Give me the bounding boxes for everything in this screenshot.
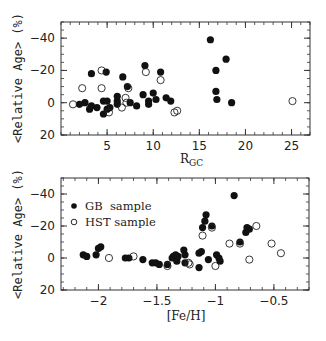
hst-point bbox=[105, 254, 112, 261]
gb-point bbox=[157, 68, 164, 75]
gb-point bbox=[152, 96, 159, 103]
gb-point bbox=[125, 254, 132, 261]
gb-point bbox=[139, 91, 146, 98]
hst-point bbox=[157, 77, 164, 84]
bottom-plot-frame bbox=[61, 178, 309, 290]
gb-point bbox=[199, 224, 206, 231]
legend-hst-marker bbox=[71, 219, 77, 225]
hst-point bbox=[142, 68, 149, 75]
gb-point bbox=[119, 73, 126, 80]
gb-point bbox=[156, 261, 163, 268]
gb-point bbox=[167, 98, 174, 105]
hst-point bbox=[118, 104, 125, 111]
bottom-x-axis-label: [Fe/H] bbox=[167, 309, 206, 323]
top-panel: 510152025−40−20020 <Relative Age> (%) RG… bbox=[11, 13, 310, 168]
x-tick-label: 10 bbox=[146, 139, 161, 153]
hst-point bbox=[79, 85, 86, 92]
bottom-y-axis-label: <Relative Age> (%) bbox=[11, 169, 25, 299]
hst-point bbox=[246, 256, 253, 263]
gb-point bbox=[201, 218, 208, 225]
gb-point bbox=[208, 222, 215, 229]
bottom-panel: −2−1.5−1−0.5−40−20020 GB sample HST samp… bbox=[11, 169, 309, 323]
gb-point bbox=[216, 258, 223, 265]
gb-point bbox=[145, 101, 152, 108]
gb-point bbox=[133, 102, 140, 109]
gb-point bbox=[231, 192, 238, 199]
hst-point bbox=[268, 240, 275, 247]
gb-point bbox=[93, 104, 100, 111]
legend-gb-label: GB sample bbox=[85, 199, 152, 213]
hst-point bbox=[277, 250, 284, 257]
x-tick-label: 25 bbox=[284, 139, 299, 153]
gb-point bbox=[88, 70, 95, 77]
gb-point bbox=[83, 253, 90, 260]
gb-point bbox=[202, 211, 209, 218]
gb-point bbox=[92, 251, 99, 258]
gb-point bbox=[181, 251, 188, 258]
gb-point bbox=[81, 99, 88, 106]
top-x-axis-label: RGC bbox=[180, 152, 203, 168]
hst-point bbox=[226, 240, 233, 247]
gb-point bbox=[228, 99, 235, 106]
x-tick-label: 15 bbox=[192, 139, 207, 153]
gb-point bbox=[246, 226, 253, 233]
x-tick-label: 20 bbox=[238, 139, 253, 153]
gb-point bbox=[139, 256, 146, 263]
hst-point bbox=[122, 94, 129, 101]
legend-gb-marker bbox=[71, 203, 77, 209]
x-tick-label: −0.5 bbox=[259, 294, 288, 308]
hst-point bbox=[289, 98, 296, 105]
x-tick-label: −2 bbox=[90, 294, 108, 308]
gb-point bbox=[150, 89, 157, 96]
x-tick-label: −1 bbox=[207, 294, 225, 308]
gb-point bbox=[207, 36, 214, 43]
y-tick-label: −20 bbox=[30, 219, 55, 233]
x-label-sub: GC bbox=[189, 158, 203, 168]
gb-point bbox=[174, 253, 181, 260]
x-tick-label: −1.5 bbox=[142, 294, 171, 308]
legend-hst-label: HST sample bbox=[85, 215, 156, 229]
gb-point bbox=[205, 256, 212, 263]
x-tick-label: 5 bbox=[103, 139, 111, 153]
gb-point bbox=[236, 238, 243, 245]
gb-point bbox=[213, 96, 220, 103]
gb-point bbox=[106, 104, 113, 111]
hst-point bbox=[98, 85, 105, 92]
gb-point bbox=[97, 243, 104, 250]
legend: GB sample HST sample bbox=[71, 199, 156, 229]
hst-point bbox=[212, 262, 219, 269]
y-tick-label: −40 bbox=[30, 31, 55, 45]
gb-point bbox=[222, 56, 229, 63]
gb-point bbox=[212, 67, 219, 74]
top-axis-ticks: 510152025−40−20020 bbox=[30, 22, 310, 153]
figure: 510152025−40−20020 <Relative Age> (%) RG… bbox=[0, 0, 326, 341]
gb-point bbox=[198, 248, 205, 255]
top-y-axis-label: <Relative Age> (%) bbox=[11, 13, 25, 143]
bottom-axis-ticks: −2−1.5−1−0.5−40−20020 bbox=[30, 178, 309, 308]
y-tick-label: 0 bbox=[47, 96, 55, 110]
gb-point bbox=[195, 264, 202, 271]
gb-point bbox=[212, 88, 219, 95]
top-data-points bbox=[69, 36, 296, 117]
hst-point bbox=[253, 222, 260, 229]
y-tick-label: −20 bbox=[30, 63, 55, 77]
top-plot-frame bbox=[61, 22, 310, 135]
hst-point bbox=[199, 232, 206, 239]
gb-point bbox=[104, 98, 111, 105]
y-tick-label: 20 bbox=[40, 128, 55, 142]
y-tick-label: −40 bbox=[30, 187, 55, 201]
gb-point bbox=[164, 261, 171, 268]
hst-point bbox=[69, 101, 76, 108]
y-tick-label: 20 bbox=[40, 283, 55, 297]
gb-point bbox=[103, 68, 110, 75]
y-tick-label: 0 bbox=[47, 251, 55, 265]
